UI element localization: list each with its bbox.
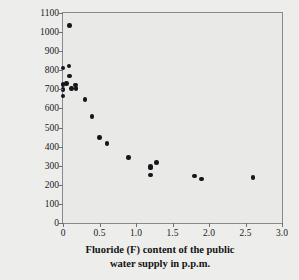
x-axis-tick-label: 0 [61, 228, 66, 238]
y-axis-tick-mark [59, 32, 63, 33]
x-axis-tick-mark [173, 223, 174, 227]
data-point [105, 141, 110, 146]
x-axis-tick-label: 0.5 [94, 228, 106, 238]
y-axis-tick-label: 700 [45, 84, 59, 94]
y-axis-tick-label: 1100 [40, 8, 59, 18]
y-axis-tick-mark [59, 13, 63, 14]
y-axis-tick-label: 400 [45, 142, 59, 152]
y-axis-tick-label: 0 [54, 218, 59, 228]
data-point [97, 135, 102, 140]
x-axis-tick-label: 2.5 [240, 228, 252, 238]
y-axis-tick-mark [59, 108, 63, 109]
y-axis-tick-label: 100 [45, 199, 59, 209]
x-axis-tick-label: 1.5 [167, 228, 179, 238]
data-point [64, 81, 69, 86]
x-axis-tick-label: 2.0 [203, 228, 215, 238]
y-axis-tick-label: 500 [45, 123, 59, 133]
y-axis-tick-mark [59, 128, 63, 129]
data-point [61, 94, 66, 99]
data-point [192, 174, 197, 179]
y-axis-tick-label: 200 [45, 180, 59, 190]
data-point [67, 74, 72, 79]
data-point [148, 173, 153, 178]
plot-frame: 01002003004005006007008009001000110000.5… [62, 12, 283, 224]
x-axis-title: Fluoride (F) content of the public water… [40, 243, 280, 271]
x-axis-tick-mark [246, 223, 247, 227]
y-axis-tick-mark [59, 185, 63, 186]
data-point [148, 166, 153, 171]
x-axis-tick-mark [63, 223, 64, 227]
y-axis-tick-mark [59, 89, 63, 90]
y-axis-tick-mark [59, 70, 63, 71]
x-axis-tick-mark [100, 223, 101, 227]
data-point [83, 97, 88, 102]
y-axis-tick-mark [59, 147, 63, 148]
data-point [90, 114, 95, 119]
x-axis-tick-mark [136, 223, 137, 227]
y-axis-tick-label: 1000 [40, 27, 59, 37]
x-axis-title-line-1: Fluoride (F) content of the public [40, 243, 280, 257]
x-axis-tick-label: 1.0 [130, 228, 142, 238]
data-point [199, 177, 204, 182]
data-point [251, 175, 256, 180]
data-point [74, 86, 79, 91]
x-axis-title-line-2: water supply in p.p.m. [40, 257, 280, 271]
y-axis-tick-mark [59, 204, 63, 205]
x-axis-tick-mark [282, 223, 283, 227]
y-axis-title: Dental caries experience (permanent teet… [0, 10, 34, 228]
y-axis-tick-label: 800 [45, 65, 59, 75]
y-axis-tick-label: 600 [45, 103, 59, 113]
y-axis-tick-label: 300 [45, 161, 59, 171]
data-point [126, 155, 131, 160]
scatter-chart-figure: Dental caries experience (permanent teet… [0, 0, 299, 280]
plot-area [63, 13, 282, 223]
y-axis-tick-mark [59, 51, 63, 52]
y-axis-tick-label: 900 [45, 46, 59, 56]
data-point [67, 23, 72, 28]
x-axis-tick-label: 3.0 [276, 228, 288, 238]
data-point [154, 160, 159, 165]
y-axis-tick-mark [59, 166, 63, 167]
x-axis-tick-mark [209, 223, 210, 227]
data-point [67, 64, 72, 69]
